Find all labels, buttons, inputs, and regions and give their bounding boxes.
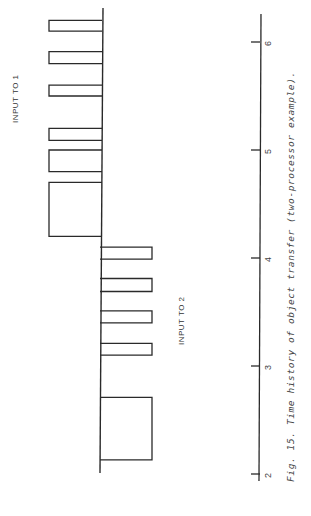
time-axis (251, 14, 261, 481)
pulse (100, 247, 152, 259)
tick-label-3: 3 (263, 365, 273, 370)
tick-label-2: 2 (263, 473, 273, 478)
pulse (49, 150, 102, 172)
input-1-label: INPUT TO 1 (11, 74, 20, 123)
pulse (100, 397, 152, 460)
tick-label-5: 5 (263, 149, 273, 154)
pulse (49, 128, 102, 140)
input-1-pulses (49, 20, 102, 236)
pulse (49, 85, 102, 96)
figure-caption: Fig. 15. Time history of object transfer… (285, 71, 296, 482)
input-2-label: INPUT TO 2 (177, 296, 186, 345)
pulse (100, 343, 152, 355)
pulse (49, 52, 102, 64)
signal-baseline (100, 8, 103, 473)
tick-label-4: 4 (263, 257, 273, 262)
pulse (100, 279, 152, 292)
pulse (100, 311, 152, 323)
pulse (49, 182, 102, 236)
pulse (49, 20, 102, 31)
input-2-pulses (100, 247, 152, 460)
tick-label-6: 6 (263, 41, 273, 46)
